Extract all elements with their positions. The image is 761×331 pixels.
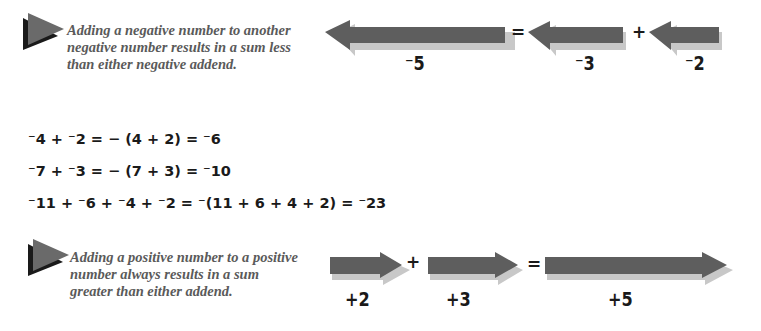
positive-addition-note: Adding a positive number to a positive n… xyxy=(70,249,300,300)
arrow-left-minus-5-icon xyxy=(325,20,515,56)
label-plus-2: +2 xyxy=(345,288,370,310)
label-minus-2: ⁻2 xyxy=(685,52,705,74)
triangle-bullet-icon xyxy=(25,238,75,278)
triangle-bullet-icon xyxy=(20,12,70,52)
equals-sign: = xyxy=(527,254,541,274)
plus-sign: + xyxy=(406,252,420,272)
negative-addition-note: Adding a negative number to another nega… xyxy=(67,22,307,73)
equation-3: ⁻11 + ⁻6 + ⁻4 + ⁻2 = ⁻(11 + 6 + 4 + 2) =… xyxy=(28,195,386,211)
label-plus-5: +5 xyxy=(608,288,633,310)
equation-1: ⁻4 + ⁻2 = − (4 + 2) = ⁻6 xyxy=(28,131,221,147)
arrow-right-plus-5-icon xyxy=(545,252,735,288)
plus-sign: + xyxy=(632,22,646,42)
equation-2: ⁻7 + ⁻3 = − (7 + 3) = ⁻10 xyxy=(28,163,231,179)
arrow-right-plus-2-icon xyxy=(330,252,415,288)
label-plus-3: +3 xyxy=(446,288,471,310)
label-minus-3: ⁻3 xyxy=(575,52,595,74)
label-minus-5: ⁻5 xyxy=(405,52,425,74)
arrow-left-minus-2-icon xyxy=(649,20,724,56)
equals-sign: = xyxy=(511,22,525,42)
arrow-right-plus-3-icon xyxy=(428,252,528,288)
arrow-left-minus-3-icon xyxy=(528,20,628,56)
